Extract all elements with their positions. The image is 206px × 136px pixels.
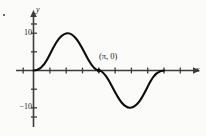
- sine-curve-figure: y x 10 −10 (π, 0): [0, 0, 206, 136]
- pi-zero-point-marker: [97, 69, 101, 73]
- plot-area: [0, 0, 206, 136]
- y-tick-label-10: 10: [12, 29, 32, 37]
- y-tick-label-negative-10: −10: [8, 103, 32, 111]
- pi-zero-annotation-label: (π, 0): [99, 52, 117, 61]
- x-axis-label: x: [196, 66, 200, 74]
- y-axis-label: y: [36, 6, 40, 14]
